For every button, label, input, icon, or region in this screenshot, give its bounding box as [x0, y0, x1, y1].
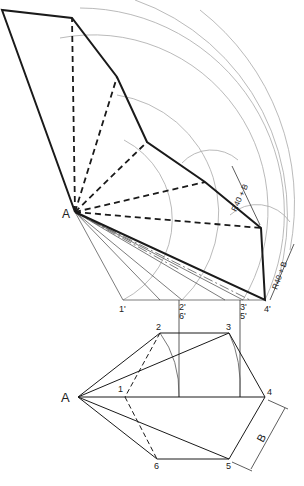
svg-text:1: 1: [118, 384, 123, 394]
plan-view: [78, 333, 265, 459]
svg-text:3: 3: [226, 322, 231, 332]
svg-text:4': 4': [264, 304, 271, 314]
vertical-projectors: [179, 300, 240, 397]
svg-text:6: 6: [154, 461, 159, 471]
svg-text:5: 5: [226, 461, 231, 471]
pyramid-development-drawing: R40 + B R40 + B A 1' 2' 6' 3' 5' 4': [0, 0, 304, 486]
fold-lines: [72, 18, 261, 228]
apex-label-development: A: [62, 207, 70, 221]
svg-text:2: 2: [156, 322, 161, 332]
svg-text:6': 6': [179, 311, 186, 321]
svg-text:4: 4: [267, 387, 272, 397]
baseline-labels: 1' 2' 6' 3' 5' 4': [119, 302, 271, 321]
svg-text:1': 1': [119, 304, 126, 314]
svg-text:5': 5': [240, 311, 247, 321]
dimension-label-2: R40 + B: [270, 260, 288, 290]
plan-arcs: [160, 333, 240, 397]
apex-label-plan: A: [61, 390, 70, 405]
